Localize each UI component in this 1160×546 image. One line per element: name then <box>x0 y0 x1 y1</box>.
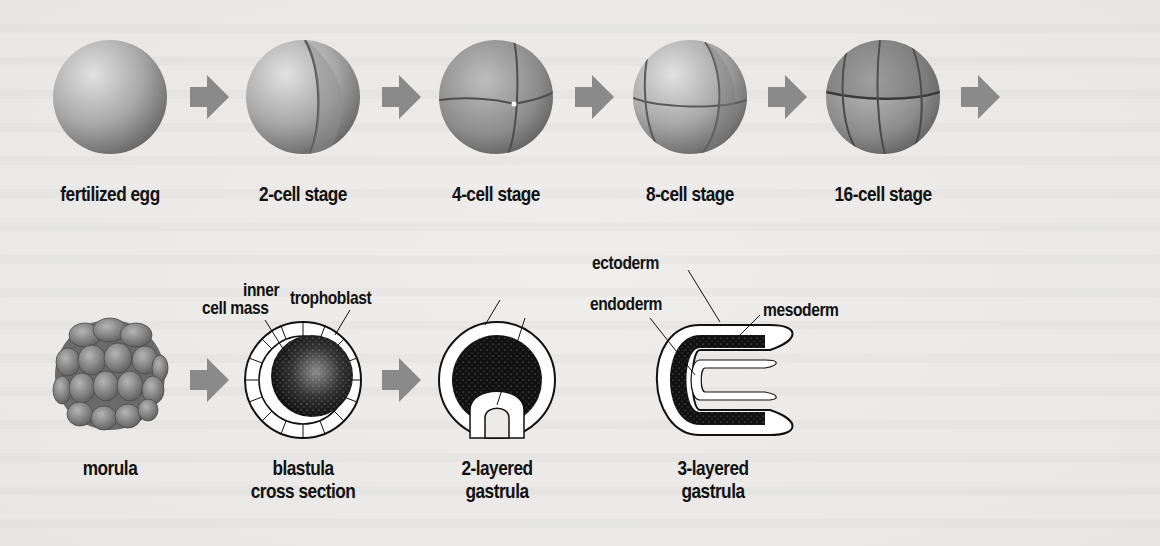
two-layered-gastrula-illustration <box>439 300 555 438</box>
arrow-icon <box>961 75 1000 119</box>
stage-label-8-cell: 8-cell stage <box>633 182 748 205</box>
arrow-icon <box>575 75 614 119</box>
stage-label-4-cell: 4-cell stage <box>439 182 554 205</box>
stage-label-2-layered-gastrula-line2: gastrula <box>440 479 555 502</box>
stage-label-blastula: blastula <box>246 456 361 479</box>
morula-illustration <box>53 318 168 430</box>
callout-inner-cell-mass-line2: cell mass <box>202 298 268 317</box>
arrow-icon <box>382 75 421 119</box>
callout-mesoderm: mesoderm <box>763 300 839 319</box>
stage-label-16-cell: 16-cell stage <box>826 182 941 205</box>
blastula-illustration <box>245 310 361 438</box>
callout-endoderm: endoderm <box>590 294 662 313</box>
arrow-icon <box>190 75 229 119</box>
stage-label-2-cell: 2-cell stage <box>246 182 361 205</box>
stage-label-fertilized-egg: fertilized egg <box>53 182 168 205</box>
arrow-icon <box>382 358 421 402</box>
two-cell-illustration <box>246 40 360 154</box>
four-cell-illustration <box>439 40 553 154</box>
fertilized-egg-illustration <box>53 40 167 154</box>
stage-label-3-layered-gastrula: 3-layered <box>656 456 771 479</box>
eight-cell-illustration <box>633 40 747 156</box>
three-layered-gastrula-illustration <box>650 270 793 435</box>
callout-trophoblast: trophoblast <box>290 288 371 307</box>
arrow-icon <box>768 75 807 119</box>
embryo-development-diagram <box>0 0 1160 546</box>
stage-label-2-layered-gastrula: 2-layered <box>440 456 555 479</box>
stage-label-3-layered-gastrula-line2: gastrula <box>656 479 771 502</box>
sixteen-cell-illustration <box>826 40 940 154</box>
arrow-icon <box>190 358 229 402</box>
stage-label-blastula-line2: cross section <box>246 479 361 502</box>
stage-label-morula: morula <box>53 456 168 479</box>
callout-ectoderm: ectoderm <box>592 253 659 272</box>
